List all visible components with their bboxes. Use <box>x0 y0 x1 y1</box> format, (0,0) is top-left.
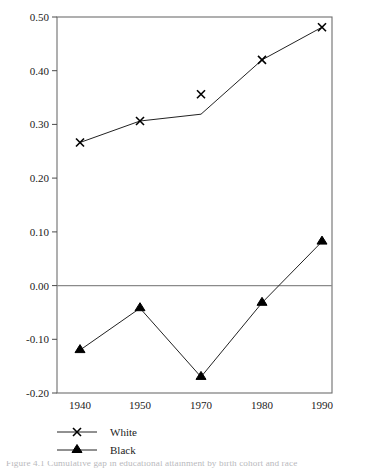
y-tick-label-0: 0.50 <box>30 11 50 23</box>
series-black-markers <box>75 236 327 379</box>
y-tick-label-2: 0.30 <box>30 118 50 130</box>
series-white-line <box>80 27 322 142</box>
data-point-black-1940 <box>75 345 85 353</box>
legend-marker-triangle-icon <box>72 445 82 453</box>
y-tick-label-1: 0.40 <box>30 65 50 77</box>
data-point-black-1990 <box>317 236 327 244</box>
legend-item-black: Black <box>57 444 136 456</box>
x-tick-label-1980: 1980 <box>251 399 274 411</box>
y-tick-label-4: 0.10 <box>30 226 50 238</box>
y-tick-label-7: -0.20 <box>26 387 49 399</box>
x-tick-label-1950: 1950 <box>129 399 152 411</box>
x-tick-label-1970: 1970 <box>190 399 213 411</box>
figure-caption: Figure 4.1 Cumulative gap in educational… <box>6 461 362 469</box>
data-point-white-1980 <box>258 56 266 64</box>
y-tick-label-5: 0.00 <box>30 280 50 292</box>
series-white-markers <box>76 23 326 146</box>
y-tick-label-3: 0.20 <box>30 172 50 184</box>
legend-label-white: White <box>110 426 137 438</box>
y-tick-label-6: -0.10 <box>26 333 49 345</box>
chart-legend: White Black <box>57 426 137 456</box>
x-tick-label-1990: 1990 <box>311 399 334 411</box>
plot-frame <box>57 17 332 393</box>
line-chart: 0.50 0.40 0.30 0.20 0.10 0.00 -0.10 -0.2… <box>0 0 366 472</box>
data-point-white-1940 <box>76 139 84 147</box>
figure-container: 0.50 0.40 0.30 0.20 0.10 0.00 -0.10 -0.2… <box>0 0 366 472</box>
x-tick-label-1940: 1940 <box>69 399 92 411</box>
series-white <box>76 23 326 146</box>
data-point-white-1990 <box>318 23 326 31</box>
data-point-white-1970 <box>197 90 205 98</box>
data-point-black-1980 <box>257 297 267 305</box>
data-point-black-1950 <box>135 303 145 311</box>
series-black-line <box>80 242 322 377</box>
figure-caption-strip: Figure 4.1 Cumulative gap in educational… <box>0 461 366 472</box>
series-black <box>75 236 327 379</box>
legend-label-black: Black <box>110 444 136 456</box>
legend-item-white: White <box>57 426 137 438</box>
y-axis-ticks <box>52 17 57 393</box>
